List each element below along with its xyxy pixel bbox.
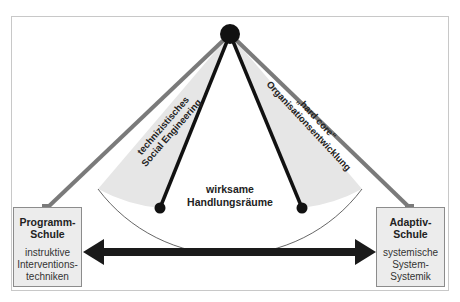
double-arrow (83, 239, 376, 265)
right-box-desc-line1: systemische (377, 247, 444, 259)
right-box-description: systemische System- Systemik (377, 247, 444, 283)
apex-circle (220, 24, 240, 44)
right-box-title-line2: Schule (377, 228, 444, 240)
left-box-title-line1: Programm- (14, 216, 81, 228)
center-label-line1: wirksame (180, 183, 280, 196)
diagram-canvas: technizistisches Social Engineering „har… (0, 0, 460, 302)
adaptiv-schule-box: Adaptiv- Schule systemische System- Syst… (376, 207, 445, 287)
left-box-title: Programm- Schule (14, 216, 81, 240)
programm-schule-box: Programm- Schule instruktive Interventio… (13, 207, 82, 287)
left-box-desc-line3: techniken (14, 271, 81, 283)
right-box-desc-line3: Systemik (377, 271, 444, 283)
right-box-desc-line2: System- (377, 259, 444, 271)
right-inner-dot (297, 203, 308, 214)
left-inner-dot (155, 203, 166, 214)
right-box-title-line1: Adaptiv- (377, 216, 444, 228)
right-box-title: Adaptiv- Schule (377, 216, 444, 240)
center-label-line2: Handlungsräume (180, 196, 280, 209)
left-box-description: instruktive Interventions- techniken (14, 247, 81, 283)
center-label: wirksame Handlungsräume (180, 183, 280, 208)
right-sector (230, 34, 362, 208)
left-box-desc-line1: instruktive (14, 247, 81, 259)
left-box-title-line2: Schule (14, 228, 81, 240)
left-box-desc-line2: Interventions- (14, 259, 81, 271)
